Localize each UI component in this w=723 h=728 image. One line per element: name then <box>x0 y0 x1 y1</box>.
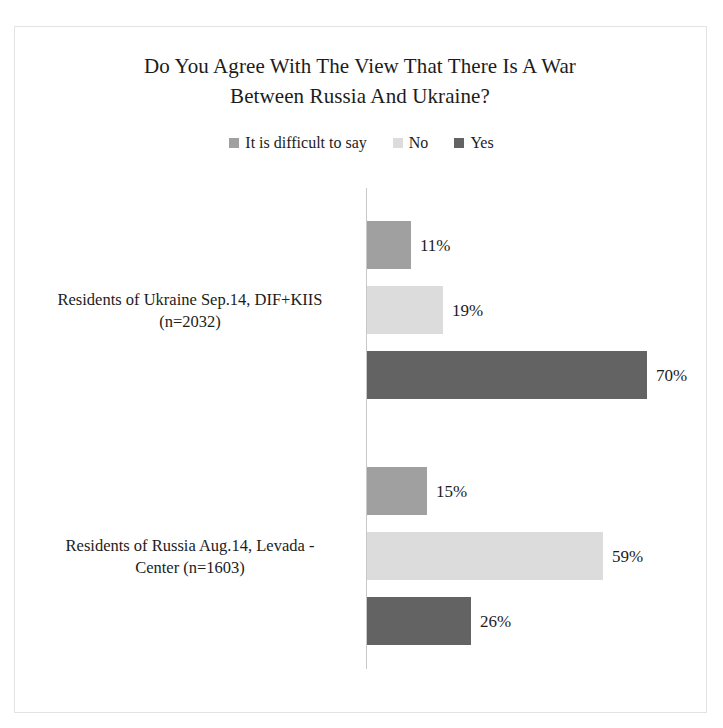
bar-russia-no[interactable] <box>367 532 603 580</box>
bar-row-russia-no[interactable]: 59% <box>367 532 643 580</box>
bar-row-russia-yes[interactable]: 26% <box>367 597 511 645</box>
bar-value-ukraine-no: 19% <box>443 301 483 320</box>
bar-value-russia-difficult-to-say: 15% <box>427 482 467 501</box>
bar-value-russia-no: 59% <box>603 547 643 566</box>
bar-ukraine-yes[interactable] <box>367 351 647 399</box>
bar-value-ukraine-yes: 70% <box>647 366 687 385</box>
plot-area: Residents of Ukraine Sep.14, DIF+KIIS (n… <box>15 27 708 714</box>
category-label-ukraine-line-1: Residents of Ukraine Sep.14, DIF+KIIS <box>21 289 359 311</box>
bar-russia-yes[interactable] <box>367 597 471 645</box>
bar-row-ukraine-difficult-to-say[interactable]: 11% <box>367 221 451 269</box>
category-label-russia-line-1: Residents of Russia Aug.14, Levada - <box>21 535 359 557</box>
category-label-ukraine: Residents of Ukraine Sep.14, DIF+KIIS (n… <box>21 289 359 333</box>
bar-ukraine-no[interactable] <box>367 286 443 334</box>
category-label-russia-line-2: Center (n=1603) <box>21 557 359 579</box>
bar-row-ukraine-no[interactable]: 19% <box>367 286 483 334</box>
category-label-russia: Residents of Russia Aug.14, Levada - Cen… <box>21 535 359 579</box>
bar-russia-difficult-to-say[interactable] <box>367 467 427 515</box>
bar-value-russia-yes: 26% <box>471 612 511 631</box>
chart-frame: Do You Agree With The View That There Is… <box>14 26 707 713</box>
category-label-ukraine-line-2: (n=2032) <box>21 311 359 333</box>
bar-ukraine-difficult-to-say[interactable] <box>367 221 411 269</box>
bar-row-ukraine-yes[interactable]: 70% <box>367 351 687 399</box>
bar-value-ukraine-difficult-to-say: 11% <box>411 236 451 255</box>
bar-row-russia-difficult-to-say[interactable]: 15% <box>367 467 467 515</box>
